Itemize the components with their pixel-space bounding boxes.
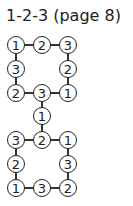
number-circle: 1	[59, 131, 77, 149]
number-circle: 3	[7, 60, 25, 78]
number-circle: 2	[33, 36, 51, 54]
number-circle: 3	[33, 179, 51, 197]
number-circle: 2	[33, 131, 51, 149]
number-circle: 2	[59, 179, 77, 197]
page-title: 1-2-3 (page 8)	[6, 6, 121, 25]
number-circle: 2	[7, 84, 25, 102]
number-circle: 3	[59, 36, 77, 54]
number-circle: 1	[33, 107, 51, 125]
number-circle: 1	[59, 84, 77, 102]
number-circle: 2	[59, 60, 77, 78]
number-circle: 1	[7, 36, 25, 54]
number-circle: 3	[59, 155, 77, 173]
number-circle: 1	[7, 179, 25, 197]
number-circle: 3	[7, 131, 25, 149]
number-circle: 2	[7, 155, 25, 173]
number-circle: 3	[33, 84, 51, 102]
